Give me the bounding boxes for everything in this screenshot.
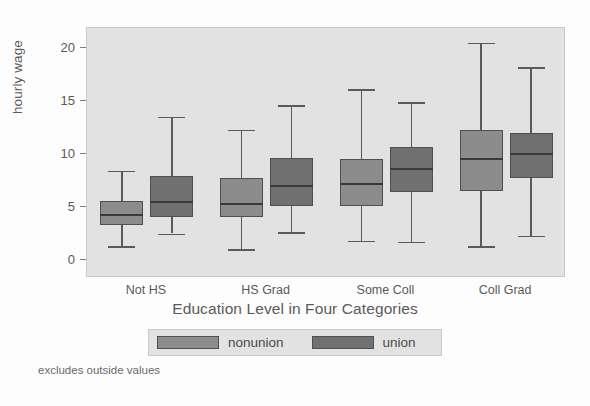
whisker-upper-line (121, 171, 123, 201)
median-line (390, 168, 433, 170)
legend-label-union: union (383, 335, 416, 350)
whisker-upper-line (241, 130, 243, 179)
whisker-lower-cap (278, 232, 305, 234)
median-line (150, 201, 193, 203)
boxplot-nonunion-not-hs (100, 28, 143, 278)
x-axis-category-some-coll: Some Coll (357, 283, 415, 297)
median-line (220, 203, 263, 205)
legend-label-nonunion: nonunion (228, 335, 284, 350)
median-line (460, 158, 503, 160)
whisker-lower-line (121, 225, 123, 246)
whisker-upper-cap (518, 67, 545, 69)
box-iqr (220, 178, 263, 216)
boxplot-union-hs-grad (270, 28, 313, 278)
median-line (270, 185, 313, 187)
whisker-lower-line (291, 206, 293, 233)
whisker-lower-line (241, 217, 243, 250)
chart-root: hourly wage 05101520 Not HSHS GradSome C… (0, 0, 590, 406)
whisker-upper-cap (278, 105, 305, 107)
whisker-upper-line (411, 102, 413, 147)
boxplot-union-some-coll (390, 28, 433, 278)
x-axis-title: Education Level in Four Categories (0, 300, 590, 318)
y-axis-tick-label: 5 (35, 199, 75, 214)
plot-area (86, 27, 565, 277)
whisker-upper-line (171, 117, 173, 176)
whisker-lower-line (411, 192, 413, 242)
box-iqr (100, 201, 143, 225)
x-axis-category-hs-grad: HS Grad (241, 283, 290, 297)
y-axis-tick-label: 20 (35, 40, 75, 55)
box-iqr (150, 176, 193, 216)
boxplot-union-not-hs (150, 28, 193, 278)
x-axis-category-not-hs: Not HS (126, 283, 166, 297)
whisker-upper-cap (348, 89, 375, 91)
whisker-lower-cap (518, 236, 545, 238)
boxplot-nonunion-hs-grad (220, 28, 263, 278)
y-axis-tick-label: 15 (35, 93, 75, 108)
whisker-upper-cap (228, 130, 255, 132)
y-axis-tick-label: 0 (35, 252, 75, 267)
median-line (100, 214, 143, 216)
whisker-lower-line (361, 206, 363, 241)
boxplot-union-coll-grad (510, 28, 553, 278)
whisker-lower-line (480, 191, 482, 246)
boxplot-nonunion-coll-grad (460, 28, 503, 278)
whisker-lower-cap (108, 246, 135, 248)
legend-item-nonunion: nonunion (157, 335, 284, 350)
y-axis-title: hourly wage (10, 0, 34, 114)
median-line (340, 183, 383, 185)
box-iqr (460, 130, 503, 191)
whisker-lower-cap (228, 249, 255, 251)
boxplot-nonunion-some-coll (340, 28, 383, 278)
box-iqr (270, 158, 313, 206)
x-axis-category-coll-grad: Coll Grad (479, 283, 532, 297)
whisker-upper-line (361, 89, 363, 159)
legend-swatch-nonunion (157, 336, 219, 349)
whisker-upper-line (480, 43, 482, 130)
legend-item-union: union (312, 335, 416, 350)
whisker-lower-cap (348, 241, 375, 243)
whisker-upper-cap (158, 117, 185, 119)
whisker-lower-cap (468, 246, 495, 248)
whisker-upper-cap (398, 102, 425, 104)
median-line (510, 153, 553, 155)
legend-swatch-union (312, 336, 374, 349)
whisker-lower-cap (398, 242, 425, 244)
whisker-upper-cap (108, 171, 135, 173)
whisker-lower-line (171, 217, 173, 234)
whisker-lower-cap (158, 234, 185, 236)
y-axis-tick-label: 10 (35, 146, 75, 161)
chart-footnote: excludes outside values (38, 364, 160, 376)
whisker-upper-cap (468, 43, 495, 45)
box-iqr (510, 133, 553, 179)
legend: nonunion union (148, 329, 442, 356)
whisker-lower-line (530, 178, 532, 235)
boxplot-canvas (87, 28, 564, 276)
whisker-upper-line (291, 105, 293, 158)
whisker-upper-line (530, 67, 532, 133)
